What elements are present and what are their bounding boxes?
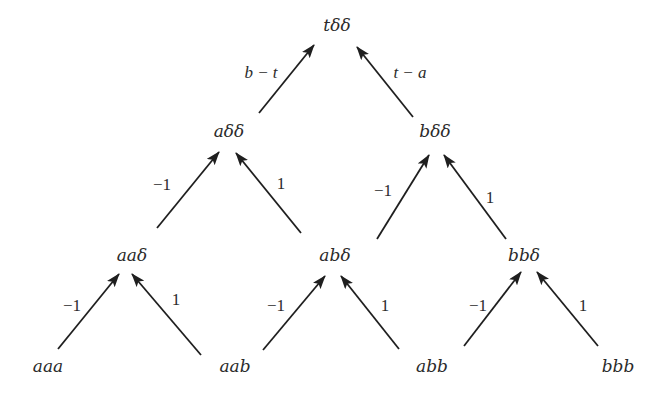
edge-weight-label: 1 (381, 296, 390, 315)
node-tdd: tδδ (323, 15, 350, 35)
edge-weight-label: −1 (374, 181, 392, 200)
edge-weight-label: 1 (579, 296, 588, 315)
edge-weight-label: −1 (469, 296, 487, 315)
edges-layer (58, 45, 598, 355)
arrow-bdd-to-tdd (357, 47, 413, 117)
nodes-layer: tδδaδδbδδaaδabδbbδaaaaababbbbb (33, 15, 635, 376)
edge-weight-label: 1 (277, 174, 286, 193)
arrow-aab-to-aad (132, 274, 201, 355)
edge-weight-label: 1 (486, 188, 495, 207)
node-add: aδδ (214, 121, 245, 141)
node-aaa: aaa (33, 356, 63, 376)
tree-diagram: b − tt − a−11−11−11−11−11 tδδaδδbδδaaδab… (0, 0, 663, 395)
node-abd: abδ (319, 245, 350, 265)
edge-weight-label: −1 (63, 296, 81, 315)
node-bdd: bδδ (419, 121, 450, 141)
node-bbb: bbb (602, 356, 635, 376)
edge-weight-label: b − t (244, 63, 278, 82)
node-aad: aaδ (117, 245, 148, 265)
arrow-bbb-to-bbd (537, 272, 598, 346)
arrow-abd-to-add (236, 153, 301, 233)
arrow-bbd-to-bdd (444, 155, 506, 239)
node-abb: abb (416, 356, 448, 376)
arrow-abb-to-abd (341, 276, 399, 349)
edge-weight-label: −1 (267, 296, 285, 315)
edge-weight-label: t − a (393, 63, 426, 82)
edge-weight-label: −1 (153, 175, 171, 194)
node-bbd: bbδ (508, 245, 540, 265)
node-aab: aab (219, 356, 250, 376)
edge-weight-label: 1 (172, 290, 181, 309)
